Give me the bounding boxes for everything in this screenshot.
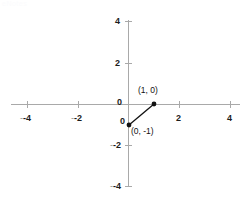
origin-label-x-axis: 0 <box>120 116 125 126</box>
coordinate-plane-figure: eNotes --4 --2 2 4 4 2 --2 --4 0 0 (1, 0… <box>0 0 251 202</box>
x-tick-label-2: 2 <box>176 113 181 123</box>
plot-canvas <box>0 0 251 202</box>
x-tick-label-minus-2: --2 <box>71 113 82 123</box>
point-label-0-minus1: (0, -1) <box>131 126 154 136</box>
x-tick-label-minus-4: --4 <box>20 113 31 123</box>
x-tick-label-4: 4 <box>227 113 232 123</box>
y-tick-label-4: 4 <box>115 16 120 26</box>
point-1-0 <box>152 102 157 107</box>
y-tick-label-minus-4: --4 <box>110 181 121 191</box>
segment-0-minus1-to-1-0 <box>129 104 154 125</box>
y-tick-label-minus-2: --2 <box>110 140 121 150</box>
origin-label-y-axis: 0 <box>117 97 122 107</box>
point-label-1-0: (1, 0) <box>138 85 158 95</box>
y-tick-label-2: 2 <box>115 58 120 68</box>
